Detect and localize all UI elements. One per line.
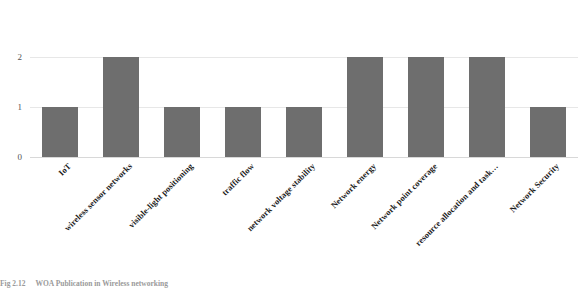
x-axis-label: network voltage stability [245, 161, 317, 233]
bar [225, 107, 261, 157]
y-axis-tick-2: 2 [18, 52, 23, 62]
x-axis-label: Network point coverage [369, 161, 439, 231]
x-axis-label: visible-light positioning [126, 161, 195, 230]
bar [408, 57, 444, 157]
bar [42, 107, 78, 157]
bar [164, 107, 200, 157]
figure-caption: Fig 2.12WOA Publication in Wireless netw… [0, 279, 400, 288]
x-axis-label: Network Security [507, 161, 560, 214]
x-axis-labels: IoTwireless sensor networksvisible-light… [30, 157, 578, 267]
chart-plot-area: 012 [30, 40, 578, 157]
caption-number: Fig 2.12 [0, 279, 25, 288]
x-axis-label: wireless sensor networks [62, 161, 134, 233]
x-axis-label: IoT [57, 161, 74, 178]
bar [103, 57, 139, 157]
caption-text: WOA Publication in Wireless networking [35, 279, 168, 288]
bar-series [30, 40, 578, 157]
bar [347, 57, 383, 157]
y-axis-tick-0: 0 [18, 152, 23, 162]
bar [469, 57, 505, 157]
x-axis-label: traffic flow [220, 161, 256, 197]
figure-container: 012 IoTwireless sensor networksvisible-l… [0, 0, 586, 290]
x-axis-label: Network energy [329, 161, 378, 210]
bar [530, 107, 566, 157]
y-axis-tick-1: 1 [18, 102, 23, 112]
bar [286, 107, 322, 157]
